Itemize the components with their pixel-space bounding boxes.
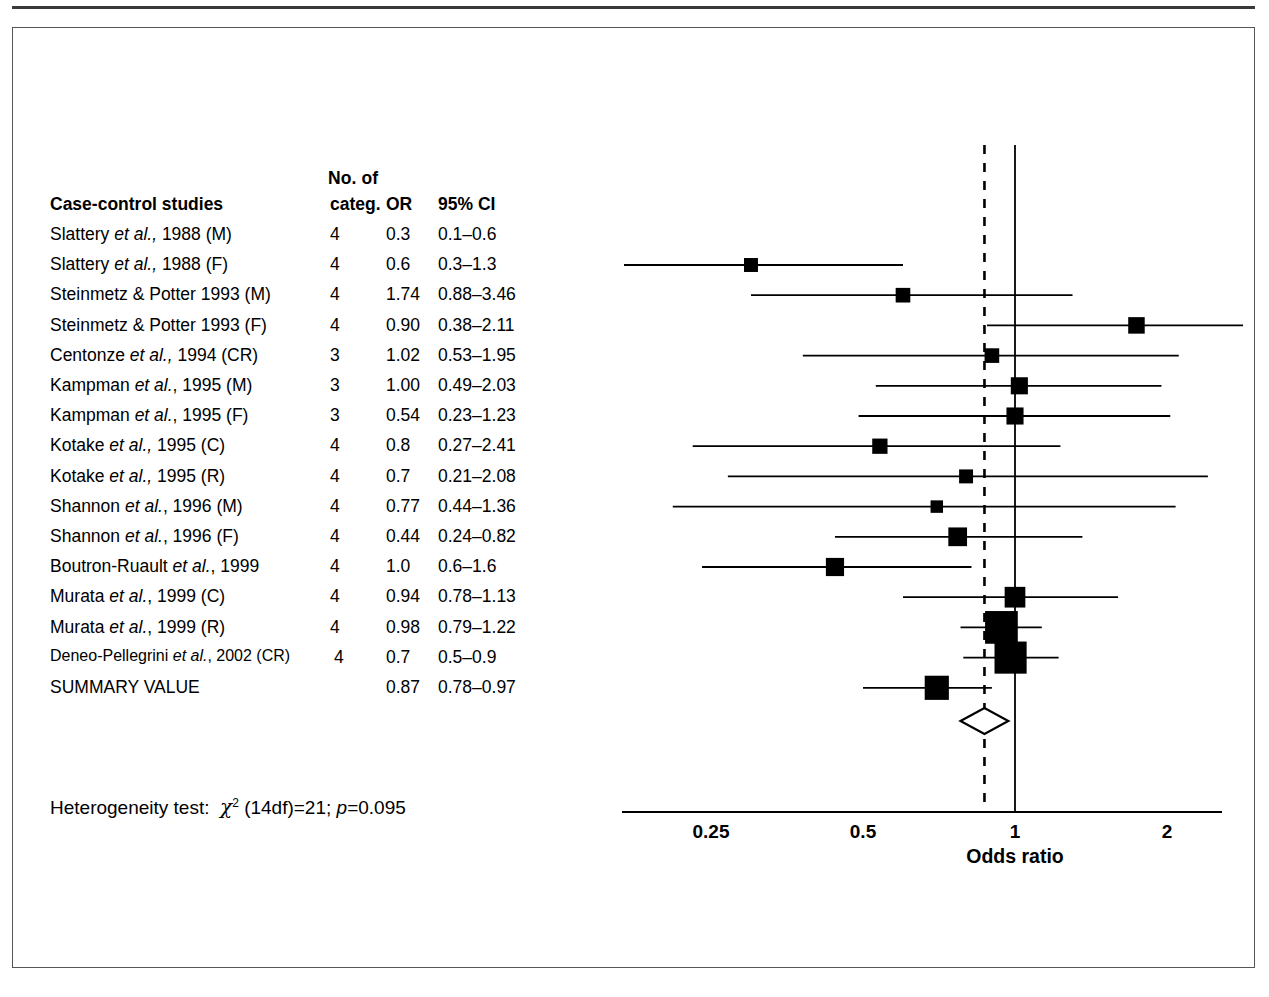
chi-square-symbol: χ — [220, 795, 232, 819]
cell-ci: 0.27–2.41 — [438, 435, 516, 456]
cell-ci: 0.38–2.11 — [438, 315, 515, 336]
cell-study: Steinmetz & Potter 1993 (F) — [50, 315, 267, 336]
cell-study-et-al: et al. — [109, 617, 147, 637]
cell-study: Murata et al., 1999 (C) — [50, 586, 225, 607]
cell-study-et-al: et al., — [114, 224, 157, 244]
cell-study: Boutron-Ruault et al., 1999 — [50, 556, 259, 577]
cell-ci: 0.23–1.23 — [438, 405, 516, 426]
cell-or: 1.74 — [386, 284, 420, 305]
cell-study: Slattery et al., 1988 (M) — [50, 224, 232, 245]
x-axis-title: Odds ratio — [895, 845, 1135, 868]
degrees-of-freedom-term: (14df)=21; — [244, 797, 331, 818]
column-header-study: Case-control studies — [50, 194, 223, 215]
table-row: Steinmetz & Potter 1993 (F)40.900.38–2.1… — [50, 315, 610, 345]
cell-or: 0.44 — [386, 526, 420, 547]
cell-study-et-al: et al. — [125, 496, 163, 516]
table-row: Deneo-Pellegrini et al., 2002 (CR)40.70.… — [50, 647, 610, 677]
cell-ci: 0.78–0.97 — [438, 677, 516, 698]
x-axis-tick-label: 2 — [1127, 821, 1207, 843]
cell-categ: 4 — [334, 647, 344, 668]
cell-study: Steinmetz & Potter 1993 (M) — [50, 284, 271, 305]
top-rule-divider — [12, 6, 1255, 9]
table-row: Kotake et al., 1995 (C)40.80.27–2.41 — [50, 435, 610, 465]
cell-ci: 0.78–1.13 — [438, 586, 516, 607]
cell-study-et-al: et al., — [114, 254, 157, 274]
figure-page: No. of Case-control studiescateg.OR95% C… — [0, 0, 1269, 997]
cell-categ: 4 — [330, 254, 340, 275]
cell-or: 1.00 — [386, 375, 420, 396]
cell-or: 0.7 — [386, 466, 410, 487]
cell-or: 0.98 — [386, 617, 420, 638]
cell-study: SUMMARY VALUE — [50, 677, 200, 698]
cell-study: Deneo-Pellegrini et al., 2002 (CR) — [50, 647, 290, 665]
cell-categ: 4 — [330, 224, 340, 245]
cell-categ: 4 — [330, 315, 340, 336]
cell-or: 0.6 — [386, 254, 410, 275]
cell-ci: 0.6–1.6 — [438, 556, 496, 577]
cell-ci: 0.24–0.82 — [438, 526, 516, 547]
cell-categ: 4 — [330, 435, 340, 456]
cell-study-et-al: et al. — [173, 556, 211, 576]
table-row: Slattery et al., 1988 (F)40.60.3–1.3 — [50, 254, 610, 284]
cell-or: 0.54 — [386, 405, 420, 426]
cell-study: Shannon et al., 1996 (M) — [50, 496, 243, 517]
cell-study: Murata et al., 1999 (R) — [50, 617, 225, 638]
cell-study: Kotake et al., 1995 (C) — [50, 435, 225, 456]
cell-study-et-al: et al. — [125, 526, 163, 546]
column-header-categ: categ. — [330, 194, 381, 215]
cell-categ: 3 — [330, 345, 340, 366]
cell-study-et-al: et al. — [135, 405, 173, 425]
cell-or: 0.90 — [386, 315, 420, 336]
table-row: Boutron-Ruault et al., 199941.00.6–1.6 — [50, 556, 610, 586]
cell-or: 0.3 — [386, 224, 410, 245]
cell-ci: 0.79–1.22 — [438, 617, 516, 638]
cell-study: Kotake et al., 1995 (R) — [50, 466, 225, 487]
p-value: =0.095 — [347, 797, 406, 818]
column-header-no-of: No. of — [328, 168, 378, 189]
heterogeneity-test: Heterogeneity test: χ2 (14df)=21; p=0.09… — [50, 795, 406, 819]
table-row: Murata et al., 1999 (R)40.980.79–1.22 — [50, 617, 610, 647]
table-header-row: Case-control studiescateg.OR95% CI — [50, 194, 610, 224]
cell-categ: 4 — [330, 466, 340, 487]
cell-or: 0.94 — [386, 586, 420, 607]
cell-ci: 0.5–0.9 — [438, 647, 496, 668]
p-symbol: p — [337, 797, 348, 818]
cell-categ: 4 — [330, 496, 340, 517]
cell-study: Centonze et al., 1994 (CR) — [50, 345, 258, 366]
table-row: Kampman et al., 1995 (F)30.540.23–1.23 — [50, 405, 610, 435]
table-row: Slattery et al., 1988 (M)40.30.1–0.6 — [50, 224, 610, 254]
table-row: Centonze et al., 1994 (CR)31.020.53–1.95 — [50, 345, 610, 375]
table-row: Kampman et al., 1995 (M)31.000.49–2.03 — [50, 375, 610, 405]
cell-ci: 0.53–1.95 — [438, 345, 516, 366]
cell-ci: 0.21–2.08 — [438, 466, 516, 487]
cell-or: 0.7 — [386, 647, 410, 668]
cell-study: Slattery et al., 1988 (F) — [50, 254, 228, 275]
cell-study-et-al: et al. — [109, 586, 147, 606]
x-axis-tick-label: 0.5 — [823, 821, 903, 843]
cell-ci: 0.88–3.46 — [438, 284, 516, 305]
cell-ci: 0.44–1.36 — [438, 496, 516, 517]
cell-ci: 0.1–0.6 — [438, 224, 496, 245]
cell-study-et-al: et al. — [173, 647, 208, 664]
cell-study-et-al: et al., — [130, 345, 173, 365]
cell-categ: 4 — [330, 284, 340, 305]
table-row: Murata et al., 1999 (C)40.940.78–1.13 — [50, 586, 610, 616]
cell-study: Kampman et al., 1995 (F) — [50, 405, 248, 426]
cell-or: 1.0 — [386, 556, 410, 577]
table-row: Kotake et al., 1995 (R)40.70.21–2.08 — [50, 466, 610, 496]
table-row: Steinmetz & Potter 1993 (M)41.740.88–3.4… — [50, 284, 610, 314]
cell-categ: 4 — [330, 617, 340, 638]
cell-categ: 3 — [330, 375, 340, 396]
cell-study-et-al: et al., — [109, 466, 152, 486]
heterogeneity-prefix: Heterogeneity test: — [50, 797, 209, 818]
table-row: Shannon et al., 1996 (F)40.440.24–0.82 — [50, 526, 610, 556]
x-axis-tick-label: 0.25 — [671, 821, 751, 843]
cell-study: Shannon et al., 1996 (F) — [50, 526, 239, 547]
column-header-ci: 95% CI — [438, 194, 495, 215]
cell-or: 0.77 — [386, 496, 420, 517]
cell-categ: 4 — [330, 526, 340, 547]
cell-or: 0.8 — [386, 435, 410, 456]
cell-study: Kampman et al., 1995 (M) — [50, 375, 252, 396]
cell-study-et-al: et al. — [135, 375, 173, 395]
table-row: Shannon et al., 1996 (M)40.770.44–1.36 — [50, 496, 610, 526]
